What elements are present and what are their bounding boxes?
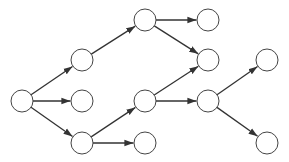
edge-arrow-D-H	[91, 107, 135, 137]
node-K	[256, 49, 278, 71]
node-L	[256, 132, 278, 154]
edge-arrow-J-K	[217, 67, 258, 95]
node-G	[197, 49, 219, 71]
node-H	[134, 90, 156, 112]
edges-layer	[31, 20, 258, 143]
node-B	[71, 49, 93, 71]
edge-arrow-J-L	[217, 107, 258, 136]
edge-arrow-A-D	[31, 107, 73, 136]
node-I	[134, 132, 156, 154]
edge-arrow-A-B	[31, 66, 72, 94]
node-E	[134, 9, 156, 31]
graph-diagram	[0, 0, 289, 162]
node-J	[197, 90, 219, 112]
node-A	[11, 90, 33, 112]
edge-arrow-H-G	[154, 66, 198, 95]
node-C	[71, 90, 93, 112]
edge-arrow-E-G	[154, 26, 198, 54]
edge-arrow-B-E	[91, 26, 135, 54]
node-D	[71, 132, 93, 154]
node-F	[197, 9, 219, 31]
